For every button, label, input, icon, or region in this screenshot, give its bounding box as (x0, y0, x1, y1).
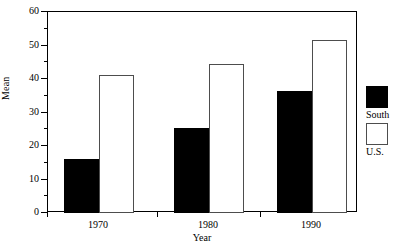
open-white-square-icon (366, 123, 388, 145)
y-axis-tick-label: 20 (17, 140, 39, 150)
x-axis-tick (260, 212, 261, 217)
y-axis-title: Mean (0, 20, 14, 100)
bar-us-1980 (209, 64, 244, 213)
y-axis-tick-label: 10 (17, 174, 39, 184)
y-axis-tick-label: 40 (17, 73, 39, 83)
bars-container (48, 12, 356, 211)
legend-label: South (366, 108, 411, 121)
y-axis-tick-labels: 0102030405060 (14, 0, 39, 251)
bar-south-1980 (174, 128, 209, 213)
plot-area (47, 11, 357, 212)
y-axis-tick-label: 50 (17, 40, 39, 50)
bar-south-1990 (277, 91, 312, 213)
chart-legend: SouthU.S. (366, 86, 411, 160)
legend-entry-south: South (366, 86, 411, 121)
x-axis-tick-label: 1980 (178, 219, 238, 230)
x-axis-title: Year (47, 232, 357, 243)
bar-south-1970 (64, 159, 99, 213)
legend-entry-us: U.S. (366, 123, 411, 158)
x-axis-tick (47, 212, 48, 217)
bar-us-1990 (312, 40, 347, 213)
bar-us-1970 (99, 75, 134, 213)
x-axis-tick (157, 212, 158, 217)
x-axis-tick-label: 1970 (68, 219, 128, 230)
x-axis-tick-label: 1990 (281, 219, 341, 230)
y-axis-tick-label: 30 (17, 107, 39, 117)
filled-black-square-icon (366, 86, 388, 108)
legend-label: U.S. (366, 145, 411, 158)
bar-chart: Mean 0102030405060 197019801990 Year Sou… (0, 0, 411, 251)
y-axis-tick-label: 60 (17, 6, 39, 16)
y-axis-tick-label: 0 (17, 207, 39, 217)
